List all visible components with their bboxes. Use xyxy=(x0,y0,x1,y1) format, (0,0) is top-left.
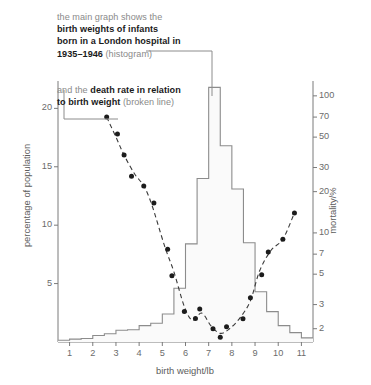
annotation-death-rate-line2-suffix: (broken line) xyxy=(120,97,174,107)
mortality-data-point xyxy=(259,272,264,277)
annotation-histogram-line4: 1935–1946 xyxy=(57,49,103,59)
figure-container: the main graph shows the birth weights o… xyxy=(0,0,371,385)
annotation-death-rate: and the death rate in relation to birth … xyxy=(57,84,181,108)
x-tick-label-10: 10 xyxy=(269,348,287,358)
mortality-data-point xyxy=(240,316,245,321)
x-axis-title: birth weight/lb xyxy=(105,365,265,376)
annotation-death-rate-line1: death rate in relation xyxy=(90,85,181,95)
x-tick-label-9: 9 xyxy=(246,348,264,358)
y2-tick-label-7: 7 xyxy=(319,248,345,258)
mortality-data-point xyxy=(165,247,170,252)
mortality-data-point xyxy=(266,250,271,255)
annotation-histogram-line3: born in a London hospital in xyxy=(57,36,181,46)
annotation-histogram-line1: the main graph shows the xyxy=(57,12,162,22)
x-tick-label-2: 2 xyxy=(84,348,102,358)
mortality-data-point xyxy=(197,307,202,312)
y-axis-title-right: mortality/% xyxy=(327,166,338,256)
x-tick-label-7: 7 xyxy=(200,348,218,358)
x-tick-label-8: 8 xyxy=(223,348,241,358)
annotation-histogram-line4-suffix: (histogram) xyxy=(103,49,152,59)
x-tick-label-3: 3 xyxy=(107,348,125,358)
mortality-data-point xyxy=(292,210,297,215)
y2-tick-label-70: 70 xyxy=(319,111,345,121)
y2-tick-label-30: 30 xyxy=(319,162,345,172)
x-tick-label-4: 4 xyxy=(130,348,148,358)
x-tick-label-11: 11 xyxy=(292,348,310,358)
y2-tick-label-50: 50 xyxy=(319,131,345,141)
x-tick-label-6: 6 xyxy=(177,348,195,358)
y2-tick-label-20: 20 xyxy=(319,186,345,196)
x-tick-label-5: 5 xyxy=(153,348,171,358)
mortality-data-point xyxy=(115,132,120,137)
mortality-data-point xyxy=(280,237,285,242)
mortality-data-point xyxy=(129,174,134,179)
annotation-histogram: the main graph shows the birth weights o… xyxy=(57,11,181,60)
mortality-data-point xyxy=(141,183,146,188)
mortality-data-point xyxy=(218,335,223,340)
mortality-data-point xyxy=(122,153,127,158)
y2-tick-label-5: 5 xyxy=(319,268,345,278)
y-tick-label-15: 15 xyxy=(30,161,52,171)
mortality-data-point xyxy=(211,326,216,331)
y2-tick-label-3: 3 xyxy=(319,299,345,309)
y2-tick-label-100: 100 xyxy=(319,90,345,100)
mortality-data-point xyxy=(193,316,198,321)
histogram-fill xyxy=(58,87,313,342)
mortality-data-point xyxy=(182,309,187,314)
chart-svg xyxy=(0,0,371,385)
annotation-death-rate-line2: to birth weight xyxy=(57,97,120,107)
mortality-data-point xyxy=(248,295,253,300)
y-tick-label-20: 20 xyxy=(30,102,52,112)
mortality-data-point xyxy=(169,273,174,278)
mortality-data-point xyxy=(224,324,229,329)
mortality-data-point xyxy=(151,200,156,205)
y2-tick-label-10: 10 xyxy=(319,227,345,237)
y-axis-title-left: percentage of population xyxy=(21,126,32,266)
annotation-death-rate-lead: and the xyxy=(57,85,90,95)
x-tick-label-1: 1 xyxy=(61,348,79,358)
annotation-histogram-line2: birth weights of infants xyxy=(57,24,158,34)
y-tick-label-10: 10 xyxy=(30,219,52,229)
y-tick-label-5: 5 xyxy=(30,278,52,288)
y2-tick-label-2: 2 xyxy=(319,323,345,333)
